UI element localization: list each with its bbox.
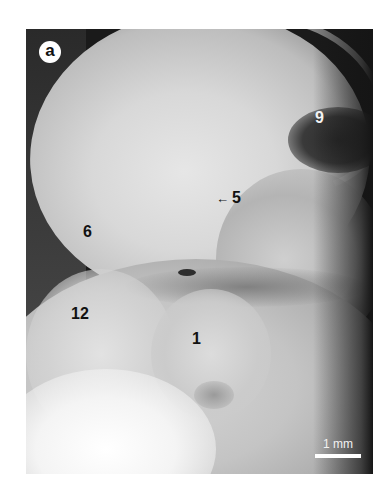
label-5: 5 [232, 189, 241, 206]
slit-shadow [178, 269, 196, 276]
pit-shadow [194, 381, 234, 409]
label-5-with-arrow: ←5 [216, 189, 241, 207]
label-9: 9 [315, 109, 324, 127]
embryo-photograph: a 9 ←5 6 12 1 1 mm [26, 29, 373, 474]
right-edge-shadow [313, 29, 373, 474]
scale-bar-line [315, 454, 361, 458]
left-arrow-icon: ← [216, 191, 229, 206]
scale-bar: 1 mm [315, 437, 361, 458]
scale-bar-text: 1 mm [315, 437, 361, 451]
label-6: 6 [83, 223, 92, 241]
label-12: 12 [71, 305, 89, 323]
panel-label-badge: a [39, 41, 61, 63]
label-1: 1 [192, 330, 201, 348]
